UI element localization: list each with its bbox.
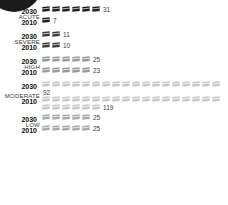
severity-group: 20303120107ACUTE (0, 6, 228, 28)
flag-icon (122, 96, 130, 102)
flag-icon (182, 81, 190, 87)
severity-groups: 20303120107ACUTE203011201010SEVERE203025… (0, 6, 228, 139)
flag-icon (192, 81, 200, 87)
flag-icon (202, 96, 210, 102)
icon-strip: 92 (40, 81, 228, 96)
flag-icon (62, 125, 70, 131)
flag-icon (62, 96, 70, 102)
flag-icon (82, 81, 90, 87)
flag-icon (92, 6, 100, 12)
flag-icon (52, 104, 60, 110)
flag-icon (42, 42, 50, 48)
flag-icon (42, 56, 50, 62)
flag-icon (62, 56, 70, 62)
flag-icon (42, 81, 50, 87)
icon-strip: 25 (40, 114, 228, 122)
flag-icon (52, 67, 60, 73)
flag-icon (192, 96, 200, 102)
flag-icon (62, 104, 70, 110)
flag-icon (42, 17, 50, 23)
flag-icon (72, 114, 80, 120)
flag-icon (62, 81, 70, 87)
icon-strip: 7 (40, 17, 228, 25)
row-value-label: 11 (63, 31, 70, 38)
row-value-label: 119 (103, 104, 113, 111)
icon-strip: 25 (40, 125, 228, 133)
flag-icon (72, 6, 80, 12)
category-label: SEVERE (0, 39, 40, 45)
flag-icon (52, 31, 60, 37)
flag-icon (162, 81, 170, 87)
flag-icon (82, 125, 90, 131)
flag-icon (82, 56, 90, 62)
flag-icon (62, 114, 70, 120)
flag-icon (92, 104, 100, 110)
flag-icon (42, 31, 50, 37)
flag-icon (82, 96, 90, 102)
flag-icon (142, 81, 150, 87)
row-value-label: 31 (103, 6, 110, 13)
flag-icon (42, 67, 50, 73)
flag-icon (42, 96, 50, 102)
row-value-label: 7 (53, 17, 57, 24)
flag-icon (62, 67, 70, 73)
flag-icon (152, 81, 160, 87)
severity-group: 203025201023HIGH (0, 56, 228, 78)
flag-icon (102, 81, 110, 87)
flag-icon (72, 56, 80, 62)
row-year-label: 2030 (0, 81, 40, 91)
row-value-label: 25 (93, 125, 100, 132)
icon-strip: 31 (40, 6, 228, 14)
flag-icon (82, 67, 90, 73)
flag-icon (52, 6, 60, 12)
icon-strip: 25 (40, 56, 228, 64)
category-label: HIGH (0, 64, 40, 70)
category-label: ACUTE (0, 14, 40, 20)
flag-icon (172, 81, 180, 87)
severity-group: 2030922010119MODERATE (0, 81, 228, 111)
flag-icon (62, 6, 70, 12)
flag-icon (42, 104, 50, 110)
flag-icon (92, 96, 100, 102)
flag-icon (172, 96, 180, 102)
row-value-label: 23 (93, 67, 100, 74)
flag-icon (52, 42, 60, 48)
flag-icon (42, 125, 50, 131)
flag-icon (142, 96, 150, 102)
severity-group: 203025201025LOW (0, 114, 228, 136)
flag-icon (52, 114, 60, 120)
flag-icon (42, 6, 50, 12)
icon-strip: 10 (40, 42, 228, 50)
row-value-label: 92 (43, 89, 50, 96)
flag-icon (122, 81, 130, 87)
flag-icon (82, 6, 90, 12)
flag-icon (72, 104, 80, 110)
flag-icon (92, 81, 100, 87)
category-label: MODERATE (0, 93, 40, 99)
flag-icon (182, 96, 190, 102)
row-value-label: 25 (93, 56, 100, 63)
flag-icon (132, 96, 140, 102)
row-value-label: 25 (93, 114, 100, 121)
flag-icon (212, 96, 220, 102)
flag-icon (72, 96, 80, 102)
flag-icon (152, 96, 160, 102)
flag-icon (72, 67, 80, 73)
flag-icon (202, 81, 210, 87)
icon-strip: 119 (40, 96, 228, 111)
flag-icon (52, 81, 60, 87)
flag-icon (162, 96, 170, 102)
flag-icon (112, 96, 120, 102)
flag-icon (52, 96, 60, 102)
flag-icon (52, 125, 60, 131)
icon-strip: 11 (40, 31, 228, 39)
flag-icon (82, 104, 90, 110)
category-label: LOW (0, 122, 40, 128)
flag-icon (212, 81, 220, 87)
icon-strip: 23 (40, 67, 228, 75)
flag-icon (72, 125, 80, 131)
pictogram-chart: 20303120107ACUTE203011201010SEVERE203025… (0, 0, 228, 205)
flag-icon (52, 56, 60, 62)
row-value-label: 10 (63, 42, 70, 49)
flag-icon (42, 114, 50, 120)
